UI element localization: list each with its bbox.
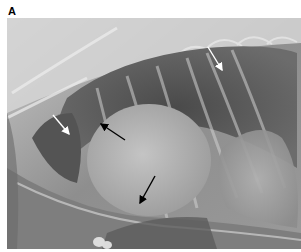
panel-label: A	[8, 5, 16, 17]
radiograph-render	[7, 18, 301, 249]
radiograph-image	[7, 18, 301, 249]
